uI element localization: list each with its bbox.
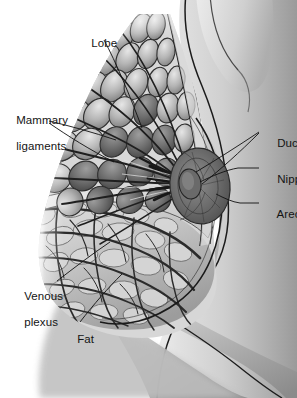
- breast-anatomy-figure: Lobe Mammary ligaments Venous plexus Fat…: [0, 0, 297, 398]
- label-areola: Areola: [264, 195, 297, 234]
- label-nipple: Nipple: [264, 160, 297, 199]
- label-mammary-ligaments: Mammary ligaments: [3, 101, 68, 166]
- label-fat: Fat: [64, 320, 94, 359]
- label-ducts: Ducts: [264, 124, 297, 163]
- label-lobe: Lobe: [78, 24, 117, 63]
- label-venous-plexus: Venous plexus: [11, 277, 63, 342]
